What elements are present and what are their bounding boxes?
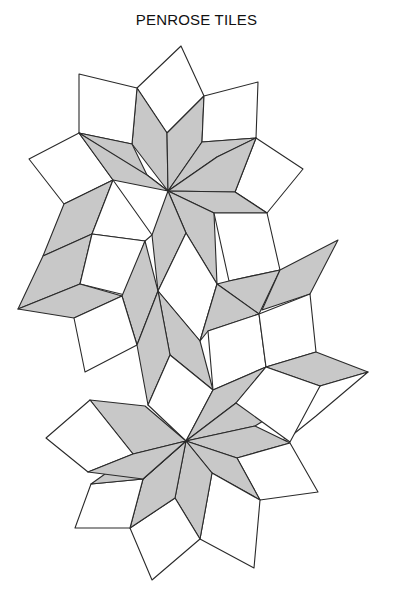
penrose-tiling-figure <box>0 0 393 598</box>
thick-rhombus-tile <box>214 213 280 281</box>
thick-rhombus-tile <box>79 74 137 144</box>
thick-rhombus-tile <box>202 82 258 142</box>
